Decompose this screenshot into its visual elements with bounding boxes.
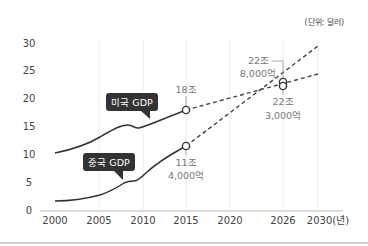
svg-text:10: 10 bbox=[23, 149, 36, 160]
gdp-line-chart: (단위: 달러) 0 5 10 15 20 25 30 2000 2005 20… bbox=[0, 0, 368, 246]
china-2015-value-line2: 4,000억 bbox=[168, 170, 204, 181]
svg-text:20: 20 bbox=[23, 93, 36, 104]
us-gdp-tag: 미국 GDP bbox=[106, 93, 158, 119]
y-axis-ticks: 0 5 10 15 20 25 30 bbox=[23, 38, 36, 216]
svg-text:25: 25 bbox=[23, 65, 36, 76]
us-2015-value: 18조 bbox=[175, 84, 196, 95]
us-2026-marker bbox=[279, 82, 286, 89]
svg-text:2030(년): 2030(년) bbox=[307, 215, 349, 226]
us-2026-value-line2: 3,000억 bbox=[265, 110, 301, 121]
svg-text:30: 30 bbox=[23, 38, 36, 49]
us-gdp-line bbox=[55, 110, 186, 153]
svg-text:5: 5 bbox=[26, 177, 32, 188]
us-2026-value-line1: 22조 bbox=[272, 96, 293, 107]
svg-text:2000: 2000 bbox=[42, 215, 67, 226]
svg-text:2026: 2026 bbox=[270, 215, 295, 226]
svg-text:2005: 2005 bbox=[86, 215, 111, 226]
china-gdp-tag: 중국 GDP bbox=[83, 153, 135, 180]
unit-label: (단위: 달러) bbox=[305, 17, 344, 27]
china-2026-value-line2: 8,000억 bbox=[240, 68, 276, 79]
china-2015-value-line1: 11조 bbox=[175, 157, 196, 168]
china-2026-value-line1: 22조 bbox=[248, 55, 269, 66]
vertical-gridlines bbox=[99, 40, 318, 210]
x-axis-ticks: 2000 2005 2010 2015 2020 2026 2030(년) bbox=[42, 215, 349, 226]
svg-text:2015: 2015 bbox=[173, 215, 198, 226]
china-2015-marker bbox=[182, 142, 189, 149]
us-gdp-projection bbox=[186, 74, 318, 110]
svg-text:미국 GDP: 미국 GDP bbox=[111, 97, 153, 108]
svg-text:2010: 2010 bbox=[130, 215, 155, 226]
svg-text:0: 0 bbox=[26, 205, 32, 216]
svg-text:15: 15 bbox=[23, 121, 36, 132]
svg-text:2020: 2020 bbox=[217, 215, 242, 226]
svg-text:중국 GDP: 중국 GDP bbox=[88, 157, 130, 168]
us-2015-marker bbox=[182, 106, 189, 113]
